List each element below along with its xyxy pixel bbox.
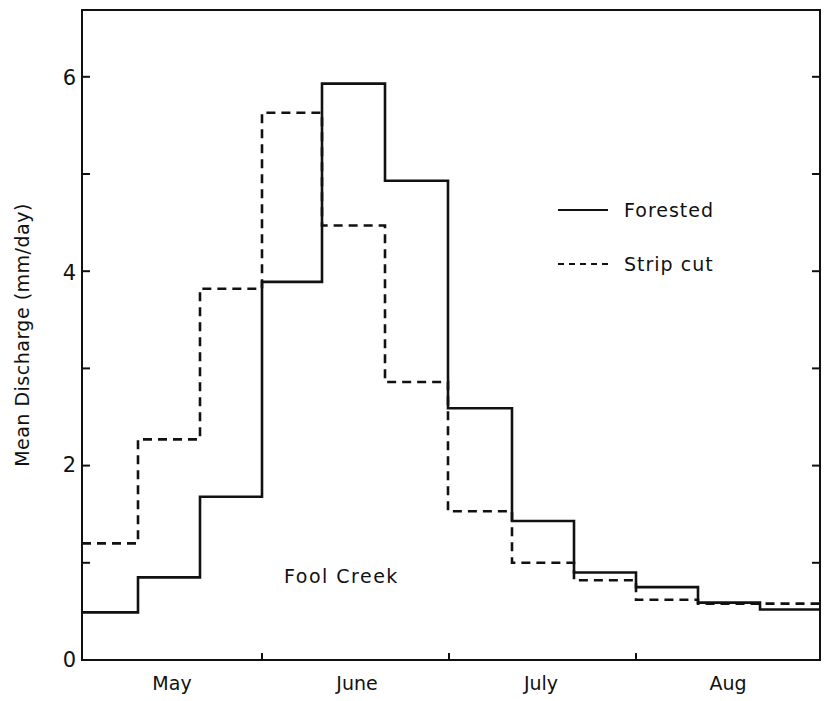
y-tick-label-0: 0 <box>63 648 76 672</box>
x-label-july: July <box>524 672 558 694</box>
dashed-line-swatch-icon <box>558 263 608 265</box>
legend-item-strip-cut: Strip cut <box>558 250 714 278</box>
x-label-june: June <box>336 672 377 694</box>
legend: Forested Strip cut <box>558 196 714 304</box>
x-label-aug: Aug <box>709 672 746 694</box>
legend-label-strip-cut: Strip cut <box>624 253 714 275</box>
y-tick-label-2: 2 <box>63 453 76 477</box>
y-tick-label-4: 4 <box>63 261 76 285</box>
series-strip-cut-line <box>82 113 820 604</box>
chart-plot-area <box>0 0 824 701</box>
site-annotation: Fool Creek <box>284 565 399 587</box>
legend-item-forested: Forested <box>558 196 714 224</box>
axes-frame <box>82 10 820 660</box>
series-forested-line <box>82 84 820 613</box>
x-label-may: May <box>152 672 191 694</box>
y-tick-label-6: 6 <box>63 66 76 90</box>
axis-ticks <box>82 77 820 660</box>
legend-label-forested: Forested <box>624 199 714 221</box>
y-axis-label: Mean Discharge (mm/day) <box>11 203 33 467</box>
solid-line-swatch-icon <box>558 209 608 211</box>
